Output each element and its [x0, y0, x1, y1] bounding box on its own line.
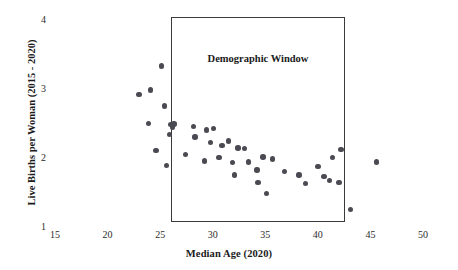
- x-tick-label: 20: [103, 229, 113, 240]
- data-point: [296, 172, 301, 177]
- data-point: [192, 134, 197, 139]
- data-point: [219, 143, 224, 148]
- data-point: [204, 127, 209, 132]
- data-point: [246, 159, 251, 164]
- data-point: [171, 121, 176, 126]
- x-tick-label: 35: [260, 229, 270, 240]
- data-point: [136, 92, 141, 97]
- y-tick-label: 3: [41, 83, 46, 94]
- data-point: [183, 152, 188, 157]
- data-point: [338, 147, 343, 152]
- data-point: [148, 87, 153, 92]
- x-tick-label: 25: [155, 229, 165, 240]
- data-point: [202, 158, 207, 163]
- y-tick-label: 2: [41, 152, 46, 163]
- data-point: [270, 156, 275, 161]
- y-tick-label: 1: [41, 221, 46, 232]
- data-point: [374, 159, 379, 164]
- data-point: [254, 167, 259, 172]
- demographic-window-box: [171, 17, 345, 222]
- x-tick-label: 15: [50, 229, 60, 240]
- data-point: [146, 121, 151, 126]
- data-point: [255, 180, 260, 185]
- data-point: [226, 138, 231, 143]
- x-tick-label: 40: [313, 229, 323, 240]
- data-point: [315, 164, 320, 169]
- data-point: [282, 169, 287, 174]
- data-point: [260, 154, 265, 159]
- scatter-plot-area: Demographic Window 1520253035404550 1234: [0, 0, 458, 270]
- data-point: [321, 174, 326, 179]
- x-axis-title: Median Age (2020): [0, 248, 458, 259]
- y-axis-title: Live Births per Woman (2015 - 2020): [26, 13, 37, 233]
- x-tick-label: 30: [208, 229, 218, 240]
- x-tick-label: 50: [418, 229, 428, 240]
- data-point: [162, 103, 167, 108]
- data-point: [164, 163, 169, 168]
- data-point: [348, 207, 353, 212]
- x-tick-label: 45: [365, 229, 375, 240]
- data-point: [153, 148, 158, 153]
- chart-screenshot: Demographic Window 1520253035404550 1234…: [0, 0, 458, 270]
- y-tick-label: 4: [41, 14, 46, 25]
- data-point: [303, 181, 308, 186]
- data-point: [336, 180, 341, 185]
- demographic-window-label: Demographic Window: [171, 53, 345, 64]
- data-point: [159, 63, 164, 68]
- data-point: [235, 145, 240, 150]
